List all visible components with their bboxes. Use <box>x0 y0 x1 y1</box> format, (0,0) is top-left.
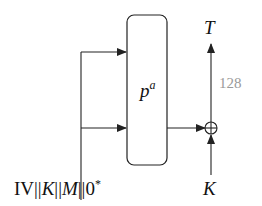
tag-label: T <box>204 17 216 38</box>
diagram-canvas: pa T 128 K IV||K||M||0* <box>0 0 262 206</box>
key-label: K <box>202 178 217 199</box>
width-label: 128 <box>219 75 242 91</box>
xor-icon <box>205 122 217 134</box>
input-label: IV||K||M||0* <box>14 177 101 199</box>
